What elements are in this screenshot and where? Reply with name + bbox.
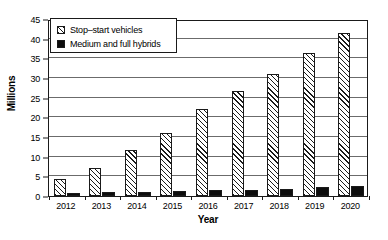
y-tick-label: 10 (30, 153, 40, 162)
bar-hybrids (316, 187, 329, 196)
bar-hybrids (102, 192, 115, 196)
bar-group (191, 21, 227, 196)
bar-hybrids (209, 190, 222, 196)
bar-stop-start (338, 33, 350, 196)
bar-stop-start (160, 133, 172, 196)
bar-stop-start (125, 150, 137, 196)
bar-stop-start (89, 168, 101, 196)
x-axis-title: Year (48, 214, 368, 225)
bar-stop-start (196, 109, 208, 196)
bar-hybrids (138, 192, 151, 196)
bar-stop-start (54, 179, 66, 196)
legend-swatch (57, 40, 65, 48)
bar-group (262, 21, 298, 196)
y-tick-label: 35 (30, 55, 40, 64)
bar-hybrids (351, 186, 364, 196)
bar-hybrids (245, 190, 258, 196)
bar-hybrids (173, 191, 186, 196)
legend-swatch (57, 26, 65, 34)
y-tick-label: 5 (35, 173, 40, 182)
bar-stop-start (267, 74, 279, 196)
x-tick-mark (369, 196, 370, 200)
y-tick-label: 15 (30, 134, 40, 143)
chart-legend: Stop–start vehiclesMedium and full hybri… (50, 18, 177, 53)
y-tick-label: 40 (30, 35, 40, 44)
bar-group (298, 21, 334, 196)
bar-stop-start (232, 91, 244, 196)
y-tick-label: 45 (30, 16, 40, 25)
bar-hybrids (280, 189, 293, 196)
bar-group (227, 21, 263, 196)
bar-hybrids (67, 193, 80, 196)
bar-group (333, 21, 369, 196)
bar-stop-start (303, 53, 315, 196)
y-tick-label: 0 (35, 193, 40, 202)
y-tick-label: 20 (30, 114, 40, 123)
legend-label: Medium and full hybrids (70, 40, 160, 49)
legend-label: Stop–start vehicles (70, 26, 142, 35)
y-axis-title: Millions (6, 59, 17, 129)
bar-chart: 051015202530354045 Millions 201220132014… (0, 0, 388, 240)
y-tick-label: 30 (30, 75, 40, 84)
legend-item: Medium and full hybrids (57, 37, 176, 51)
y-tick-label: 25 (30, 94, 40, 103)
legend-item: Stop–start vehicles (57, 23, 176, 37)
